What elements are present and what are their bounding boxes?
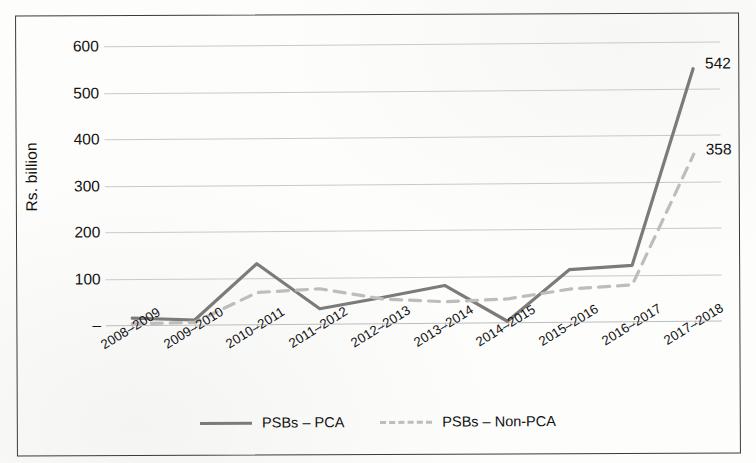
x-axis-label-2015-2016: 2015–2016	[536, 301, 601, 349]
x-axis-label-2008-2009: 2008–2009	[98, 304, 163, 352]
x-axis-label-2009-2010: 2009–2010	[161, 304, 226, 352]
x-axis-label-2012-2013: 2012–2013	[348, 302, 413, 350]
x-axis-label-2010-2011: 2010–2011	[223, 304, 287, 351]
legend-key-solid-line-icon	[200, 421, 252, 424]
plot-area: 600500400300200100– Rs. billion 542358 2…	[0, 0, 756, 463]
x-axis-category-labels: 2008–20092009–20102010–20112011–20122012…	[0, 0, 756, 463]
legend-label-psbs-pca: PSBs – PCA	[262, 414, 344, 430]
legend-key-dashed-line-icon	[380, 420, 432, 423]
line-chart: 600500400300200100– Rs. billion 542358 2…	[0, 0, 756, 463]
x-axis-label-2014-2015: 2014–2015	[474, 302, 539, 350]
x-axis-label-2016-2017: 2016–2017	[599, 301, 664, 349]
x-axis-label-2013-2014: 2013–2014	[411, 302, 476, 350]
x-axis-label-2011-2012: 2011–2012	[286, 303, 350, 350]
legend-item-psbs-pca[interactable]: PSBs – PCA	[200, 414, 344, 431]
legend-item-psbs-non-pca[interactable]: PSBs – Non-PCA	[380, 413, 556, 430]
legend-label-psbs-non-pca: PSBs – Non-PCA	[442, 413, 556, 430]
x-axis-label-2017-2018: 2017–2018	[661, 300, 726, 348]
